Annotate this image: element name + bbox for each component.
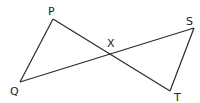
label-q: Q xyxy=(10,85,19,98)
geometry-diagram: P S X Q T xyxy=(0,0,200,103)
segment-pq xyxy=(20,19,53,82)
segment-st xyxy=(170,28,194,91)
label-p: P xyxy=(48,5,55,18)
label-t: T xyxy=(173,91,181,103)
segment-pt xyxy=(53,19,170,91)
label-s: S xyxy=(186,15,193,28)
label-x: X xyxy=(107,37,115,50)
